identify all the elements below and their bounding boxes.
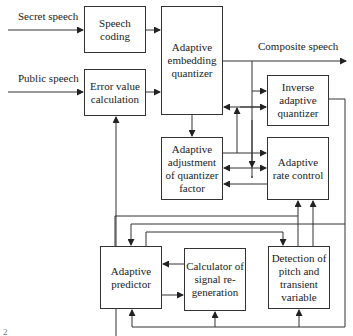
adaptive-rate-control-block: Adaptive rate control: [267, 137, 329, 200]
composite-speech-label: Composite speech: [258, 40, 338, 53]
caption-fragment: 2: [3, 326, 8, 336]
adaptive-adjustment-block: Adaptive adjustment of quantizer factor: [161, 137, 223, 200]
error-value-calculation-block: Error value calculation: [84, 69, 146, 116]
adaptive-predictor-block: Adaptive predictor: [100, 246, 162, 309]
pitch-detection-block: Detection of pitch and transient variabl…: [268, 246, 330, 309]
signal-regeneration-block: Calculator of signal re-generation: [184, 248, 246, 311]
inverse-adaptive-quantizer-block: Inverse adaptive quantizer: [267, 75, 329, 126]
adaptive-embedding-quantizer-block: Adaptive embedding quantizer: [161, 6, 223, 115]
public-speech-label: Public speech: [18, 72, 79, 85]
secret-speech-label: Secret speech: [18, 10, 78, 23]
speech-coding-block: Speech coding: [84, 6, 146, 53]
